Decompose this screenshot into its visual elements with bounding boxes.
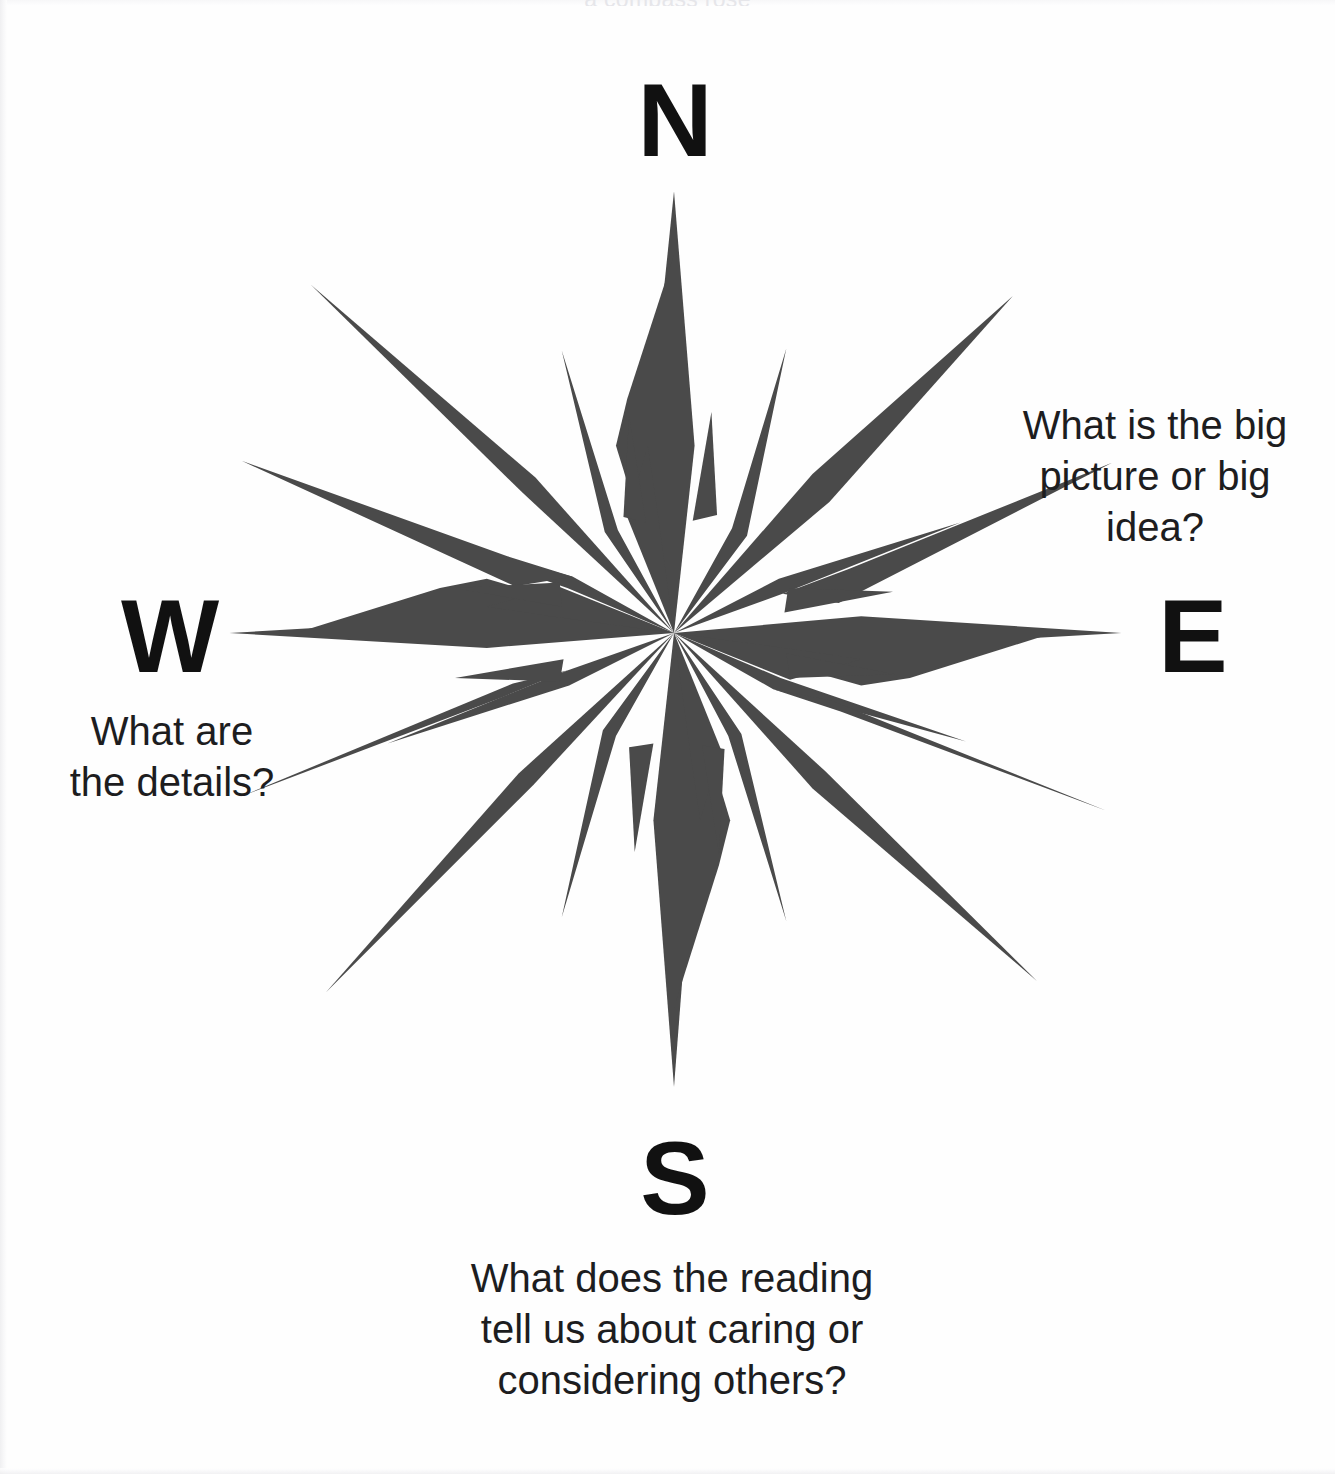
prompt-west-line-1: What are (22, 706, 322, 757)
prompt-east-line-1: What is the big (1000, 400, 1310, 451)
sliver-ssw (629, 743, 653, 852)
prompt-east-line-3: idea? (1000, 502, 1310, 553)
compass-rose-svg (206, 165, 1142, 1101)
cardinal-letter-east: E (1108, 584, 1278, 688)
scan-edge-left (0, 0, 7, 1474)
prompt-west-line-2: the details? (22, 757, 322, 808)
prompt-east: What is the big picture or big idea? (1000, 400, 1310, 554)
compass-rays (229, 191, 1121, 1087)
prompt-south-line-1: What does the reading (372, 1253, 972, 1304)
prompt-south: What does the reading tell us about cari… (372, 1253, 972, 1407)
ray-east-northeast (674, 523, 960, 633)
page-root: a compass rose (0, 0, 1335, 1474)
sliver-nne (693, 412, 717, 521)
cardinal-letter-south: S (595, 1126, 755, 1230)
sliver-ene (784, 588, 893, 612)
ray-southeast (674, 633, 1037, 981)
prompt-south-line-3: considering others? (372, 1355, 972, 1406)
cardinal-letter-north: N (595, 68, 755, 172)
clipped-page-title: a compass rose (0, 0, 1335, 6)
sliver-wsw (455, 659, 564, 681)
prompt-east-line-2: picture or big (1000, 451, 1310, 502)
compass-rose-graphic (206, 165, 1142, 1101)
ray-west-southwest (388, 633, 674, 743)
prompt-west: What are the details? (22, 706, 322, 808)
scan-edge-bottom (0, 1468, 1335, 1474)
prompt-south-line-2: tell us about caring or (372, 1304, 972, 1355)
ray-southwest (326, 633, 674, 992)
cardinal-letter-west: W (80, 584, 260, 688)
